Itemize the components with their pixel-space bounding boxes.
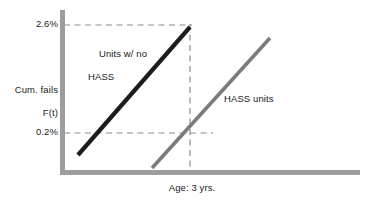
- annotation-units-no-hass: Units w/ no HASS: [88, 36, 178, 105]
- annotation-units-no-hass-line2: HASS: [88, 71, 178, 83]
- x-axis-title: Age: 3 yrs.: [132, 182, 252, 194]
- cumulative-failures-chart: 2.6% 0.2% Cum. fails F(t) Units w/ no HA…: [0, 0, 369, 206]
- annotation-hass-units: HASS units: [224, 93, 314, 105]
- annotation-units-no-hass-line1: Units w/ no: [99, 48, 147, 59]
- y-axis-title-line2: F(t): [0, 107, 58, 119]
- y-axis-title-line1: Cum. fails: [15, 84, 58, 95]
- y-axis-tick-label-high: 2.6%: [18, 18, 58, 30]
- y-axis-title: Cum. fails F(t): [0, 72, 58, 141]
